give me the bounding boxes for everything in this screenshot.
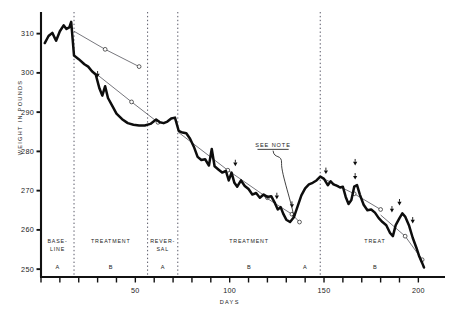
y-axis-tick-label: 280 <box>21 147 34 156</box>
x-axis-tick-label: 100 <box>223 286 236 295</box>
trend-marker-5-1 <box>403 234 407 238</box>
phase-label-0: LINE <box>50 246 65 252</box>
event-marker-8 <box>397 199 401 206</box>
phase-letter-2: A <box>161 264 165 270</box>
phase-label-2: SAL <box>156 246 169 252</box>
event-marker-6 <box>353 173 357 180</box>
y-axis-tick-label: 260 <box>21 225 34 234</box>
trend-marker-0-1 <box>103 47 107 51</box>
event-marker-triangle-8 <box>397 202 401 206</box>
trend-line-1 <box>90 69 158 122</box>
event-marker-9 <box>411 217 415 224</box>
phase-letter-extra-0: A <box>303 264 307 270</box>
y-axis-tick-label: 300 <box>21 68 34 77</box>
x-axis-tick-label: 150 <box>318 286 331 295</box>
trend-marker-0-2 <box>137 65 141 69</box>
event-marker-triangle-9 <box>411 220 415 224</box>
event-marker-triangle-1 <box>233 163 237 167</box>
phase-letter-0: A <box>55 264 59 270</box>
y-axis-tick-label: 270 <box>21 186 34 195</box>
phase-label-0: BASE- <box>47 238 67 244</box>
phase-letter-1: B <box>109 264 113 270</box>
trend-marker-4-2 <box>379 208 383 212</box>
weight-chart-figure: 25026027028029030031050100150200DAYSWEIG… <box>0 0 449 322</box>
event-marker-triangle-5 <box>353 162 357 166</box>
phase-label-1: TREATMENT <box>91 238 131 244</box>
x-axis-title: DAYS <box>220 299 240 305</box>
phase-letter-4: B <box>373 264 377 270</box>
phase-letter-3: B <box>247 264 251 270</box>
event-marker-triangle-7 <box>390 209 394 213</box>
event-marker-triangle-6 <box>353 176 357 180</box>
event-marker-5 <box>353 159 357 166</box>
phase-label-3: TREATMENT <box>229 238 269 244</box>
y-axis-title: WEIGHT IN POUNDS <box>17 80 23 156</box>
x-axis-tick-label: 50 <box>131 286 140 295</box>
y-axis-tick-label: 290 <box>21 108 34 117</box>
phase-label-2: REVER- <box>150 238 175 244</box>
event-marker-1 <box>233 160 237 167</box>
event-marker-triangle-2 <box>275 196 279 200</box>
y-axis-tick-label: 250 <box>21 265 34 274</box>
phase-label-4: TREAT <box>364 238 385 244</box>
event-marker-4 <box>324 168 328 175</box>
weight-data-line <box>45 22 424 268</box>
event-marker-2 <box>275 193 279 200</box>
event-marker-7 <box>390 206 394 213</box>
y-axis-tick-label: 310 <box>21 29 34 38</box>
trend-marker-3-2 <box>298 220 302 224</box>
plot-area: 25026027028029030031050100150200DAYSWEIG… <box>17 12 445 305</box>
annotation-text-0: SEE NOTE <box>255 142 291 148</box>
chart-canvas: 25026027028029030031050100150200DAYSWEIG… <box>0 0 449 322</box>
trend-marker-1-1 <box>130 100 134 104</box>
event-marker-triangle-4 <box>324 170 328 174</box>
trend-line-5 <box>381 215 423 260</box>
x-axis-tick-label: 200 <box>412 286 425 295</box>
